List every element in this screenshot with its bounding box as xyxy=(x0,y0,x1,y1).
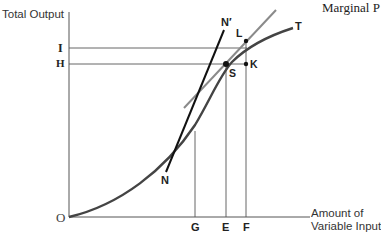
x-tick-f: F xyxy=(243,222,250,233)
y-axis-label: Total Output xyxy=(2,9,64,21)
point-k xyxy=(244,62,248,66)
line-label-n-prime: N′ xyxy=(221,17,232,28)
point-label-l: L xyxy=(236,28,242,39)
point-label-s: S xyxy=(229,68,236,79)
line-label-n: N xyxy=(161,175,169,186)
point-label-k: K xyxy=(250,59,258,70)
y-tick-h: H xyxy=(56,58,65,69)
x-tick-g: G xyxy=(191,222,200,233)
x-tick-e: E xyxy=(222,222,229,233)
production-diagram xyxy=(0,0,381,234)
point-l xyxy=(244,39,248,43)
curve-label-t: T xyxy=(295,21,302,32)
y-tick-i: I xyxy=(58,42,63,54)
x-axis-label-line2: Variable Input xyxy=(311,221,381,233)
cropped-title: Marginal P xyxy=(322,1,380,14)
x-axis-label-line1: Amount of xyxy=(311,208,363,220)
origin-label: O xyxy=(56,211,65,224)
total-product-curve xyxy=(69,28,293,217)
